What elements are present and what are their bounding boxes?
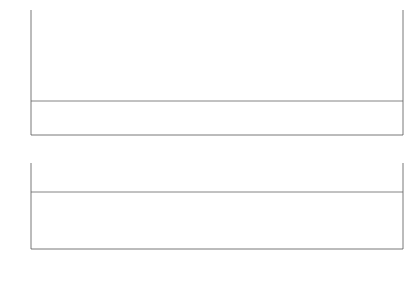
soi-panel xyxy=(31,163,403,249)
sst-panel xyxy=(31,10,403,135)
enso-chart xyxy=(0,0,415,283)
